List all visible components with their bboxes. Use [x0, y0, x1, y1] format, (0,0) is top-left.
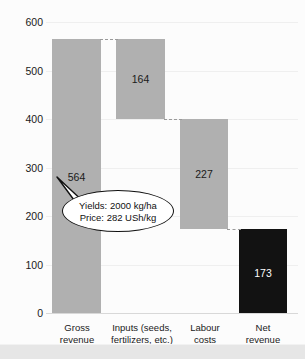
bar-value-label-net-revenue: 173 — [239, 268, 287, 279]
x-axis-label-line-1: Inputs (seeds, — [106, 322, 178, 334]
assumptions-callout: Yields: 2000 kg/ha Price: 282 USh/kg — [62, 190, 174, 232]
y-tick-label-400: 400 — [3, 114, 43, 125]
connector-inputs-to-labour — [164, 119, 182, 120]
y-tick-label-600: 600 — [3, 17, 43, 28]
gridline-600 — [46, 22, 298, 23]
x-axis-label-inputs: Inputs (seeds, fertilizers, etc.) — [106, 322, 178, 345]
y-tick-label-500: 500 — [3, 66, 43, 77]
x-axis-label-gross-revenue: Gross revenue — [44, 322, 110, 345]
bar-labour-costs[interactable]: 227 — [180, 119, 228, 229]
waterfall-chart: 600 500 400 300 200 100 0 564 164 227 17… — [0, 0, 305, 359]
x-axis-label-net-revenue: Net revenue — [233, 322, 293, 345]
connector-gross-to-inputs — [100, 39, 118, 40]
y-tick-label-200: 200 — [3, 211, 43, 222]
callout-line-yields: Yields: 2000 kg/ha — [62, 200, 174, 212]
bar-inputs[interactable]: 164 — [116, 39, 165, 119]
bar-net-revenue[interactable]: 173 — [239, 229, 287, 313]
y-tick-label-100: 100 — [3, 260, 43, 271]
x-axis-label-line-1: Net — [233, 322, 293, 334]
bar-value-label-inputs: 164 — [116, 74, 165, 85]
bottom-band — [0, 345, 305, 359]
y-tick-label-300: 300 — [3, 163, 43, 174]
x-axis-label-line-1: Labour — [175, 322, 235, 334]
callout-line-price: Price: 282 USh/kg — [62, 212, 174, 224]
x-axis-label-labour-costs: Labour costs — [175, 322, 235, 345]
bar-value-label-labour-costs: 227 — [180, 169, 228, 180]
y-tick-label-0: 0 — [3, 308, 43, 319]
connector-labour-to-net — [227, 229, 241, 230]
callout-text: Yields: 2000 kg/ha Price: 282 USh/kg — [62, 200, 174, 223]
plot-area: 600 500 400 300 200 100 0 564 164 227 17… — [0, 0, 305, 359]
x-axis-label-line-1: Gross — [44, 322, 110, 334]
axis-baseline-zero — [46, 313, 298, 314]
